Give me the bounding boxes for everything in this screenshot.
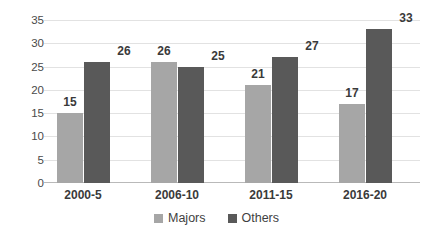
bar-value-label: 25 [198, 49, 238, 63]
x-tick-label-2006-10: 2006-10 [132, 188, 222, 202]
legend-swatch-icon [154, 214, 163, 223]
legend-item-majors[interactable]: Majors [154, 211, 206, 225]
y-tick-label: 5 [14, 154, 44, 166]
bar-value-label: 33 [386, 11, 426, 25]
bar-majors[interactable]: 26 [151, 62, 177, 183]
bar-others[interactable]: 33 [366, 29, 392, 183]
y-tick-label: 15 [14, 107, 44, 119]
bar-majors[interactable]: 21 [245, 85, 271, 183]
legend-item-others[interactable]: Others [228, 211, 280, 225]
x-tick-label-2000-5: 2000-5 [38, 188, 128, 202]
bar-value-label: 27 [292, 39, 332, 53]
bar-group: 21 27 [245, 20, 298, 183]
x-tick-label-2016-20: 2016-20 [320, 188, 410, 202]
bar-group: 26 25 [151, 20, 204, 183]
bar-others[interactable]: 26 [84, 62, 110, 183]
bar-group: 17 33 [339, 20, 392, 183]
y-tick-label: 30 [14, 37, 44, 49]
legend-label: Majors [168, 211, 206, 225]
y-tick-label: 10 [14, 130, 44, 142]
legend-label: Others [242, 211, 280, 225]
bar-majors[interactable]: 15 [57, 113, 83, 183]
y-tick-label: 35 [14, 14, 44, 26]
bar-value-label: 26 [144, 44, 184, 58]
y-tick-label: 25 [14, 61, 44, 73]
bar-others[interactable]: 25 [178, 67, 204, 183]
y-tick-label: 20 [14, 84, 44, 96]
legend-swatch-icon [228, 214, 237, 223]
bar-group: 15 26 [57, 20, 110, 183]
legend: Majors Others [0, 211, 433, 225]
bar-chart: 35 30 25 20 15 10 5 0 15 26 26 [0, 0, 433, 235]
bar-majors[interactable]: 17 [339, 104, 365, 183]
bar-value-label: 26 [104, 44, 144, 58]
x-tick-label-2011-15: 2011-15 [226, 188, 316, 202]
bar-others[interactable]: 27 [272, 57, 298, 183]
plot-area: 15 26 26 25 21 27 17 [44, 20, 420, 183]
